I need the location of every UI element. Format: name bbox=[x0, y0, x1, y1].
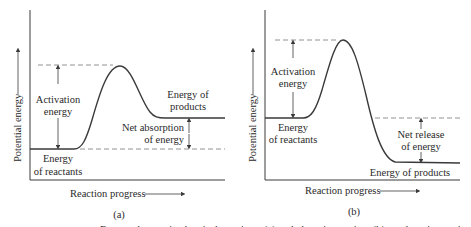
panel-caption: (a) bbox=[113, 209, 125, 221]
net-label-2: of energy bbox=[144, 134, 184, 145]
activation-label-2: energy bbox=[279, 78, 308, 89]
x-axis-label: Reaction progress bbox=[305, 185, 381, 196]
products-label-1: Energy of bbox=[167, 89, 209, 100]
reactants-label-2: of reactants bbox=[269, 134, 318, 145]
y-axis-label: Potential energy bbox=[12, 93, 23, 162]
products-label: Energy of products bbox=[370, 167, 450, 178]
panel-b: Potential energy Activation energy Energ… bbox=[247, 10, 460, 218]
net-label-1: Net release bbox=[398, 129, 445, 140]
panel-a: Potential energy Activation energy Energ… bbox=[12, 10, 225, 221]
reactants-label-1: Energy bbox=[43, 153, 74, 164]
activation-label-1: Activation bbox=[271, 66, 316, 77]
y-axis-label: Potential energy bbox=[247, 93, 258, 162]
energy-diagrams: Potential energy Activation energy Energ… bbox=[0, 0, 471, 227]
reactants-label-1: Energy bbox=[278, 122, 309, 133]
net-label-1: Net absorption bbox=[122, 122, 185, 133]
reactants-label-2: of reactants bbox=[34, 166, 83, 177]
activation-label-2: energy bbox=[44, 106, 73, 117]
panel-caption: (b) bbox=[348, 206, 361, 218]
activation-label-1: Activation bbox=[36, 94, 81, 105]
products-label-2: products bbox=[170, 101, 206, 112]
figure-caption-clipped: Energy changes in chemical reactions: (a… bbox=[100, 224, 471, 227]
x-axis-label: Reaction progress bbox=[70, 188, 146, 199]
net-label-2: of energy bbox=[401, 141, 441, 152]
